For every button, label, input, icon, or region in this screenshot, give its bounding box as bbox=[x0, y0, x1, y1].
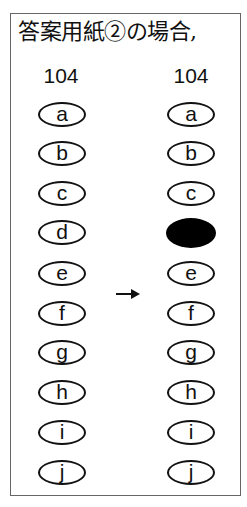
right-bubble-d-filled[interactable] bbox=[166, 218, 216, 248]
instruction-title: 答案用紙②の場合, bbox=[18, 18, 240, 46]
left-question-number: 104 bbox=[31, 64, 91, 88]
left-bubble-e[interactable]: e bbox=[38, 261, 86, 286]
right-question-number: 104 bbox=[161, 64, 221, 88]
left-bubble-b[interactable]: b bbox=[38, 141, 86, 166]
left-bubble-g[interactable]: g bbox=[38, 340, 86, 365]
right-bubble-c[interactable]: c bbox=[167, 181, 215, 206]
left-bubble-c[interactable]: c bbox=[38, 181, 86, 206]
right-arrow-icon bbox=[115, 287, 141, 301]
left-bubble-h[interactable]: h bbox=[38, 380, 86, 405]
right-bubble-f[interactable]: f bbox=[167, 301, 215, 326]
right-bubble-a[interactable]: a bbox=[167, 102, 215, 127]
right-bubble-i[interactable]: i bbox=[167, 420, 215, 445]
left-bubble-i[interactable]: i bbox=[38, 420, 86, 445]
left-bubble-f[interactable]: f bbox=[38, 301, 86, 326]
right-bubble-b[interactable]: b bbox=[167, 141, 215, 166]
left-bubble-a[interactable]: a bbox=[38, 102, 86, 127]
left-bubble-j[interactable]: j bbox=[38, 460, 86, 485]
right-bubble-j[interactable]: j bbox=[167, 460, 215, 485]
right-bubble-g[interactable]: g bbox=[167, 340, 215, 365]
left-bubble-d[interactable]: d bbox=[38, 220, 86, 245]
right-bubble-h[interactable]: h bbox=[167, 380, 215, 405]
right-bubble-e[interactable]: e bbox=[167, 261, 215, 286]
